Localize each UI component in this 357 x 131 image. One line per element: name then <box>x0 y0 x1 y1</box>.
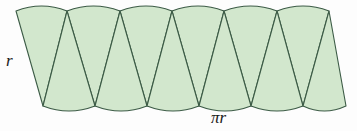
figure-canvas: r πr <box>0 0 357 131</box>
base-length-label: πr <box>211 109 226 126</box>
radius-label: r <box>6 52 13 69</box>
sector-diagram <box>0 0 357 131</box>
sectors-group <box>16 6 346 111</box>
